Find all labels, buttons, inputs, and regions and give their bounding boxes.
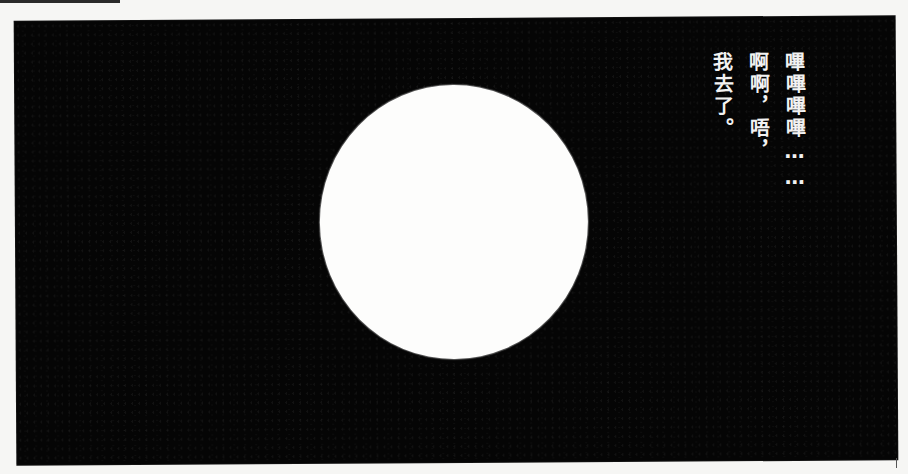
- comic-page: 嗶嗶嗶嗶…… 啊啊，唔， 我去了。: [0, 0, 908, 474]
- previous-panel-edge: [0, 0, 120, 3]
- comic-panel: 嗶嗶嗶嗶…… 啊啊，唔， 我去了。: [15, 16, 898, 464]
- caption-column-1: 嗶嗶嗶嗶……: [779, 51, 810, 191]
- crop-mark: [896, 458, 897, 468]
- moon-circle: [319, 84, 589, 360]
- caption-column-3: 我去了。: [707, 51, 738, 191]
- vertical-caption: 嗶嗶嗶嗶…… 啊啊，唔， 我去了。: [707, 51, 810, 192]
- caption-column-2: 啊啊，唔，: [743, 51, 774, 191]
